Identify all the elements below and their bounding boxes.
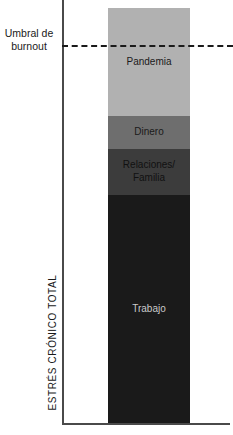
y-axis-title: ESTRÉS CRÓNICO TOTAL [47,253,58,433]
bar-segment-relaciones-familia: Relaciones/ Familia [108,149,190,195]
bar-segment-label-trabajo: Trabajo [132,303,166,316]
bar-segment-label-dinero: Dinero [134,126,163,139]
stress-stacked-bar-chart: Pandemia Dinero Relaciones/ Familia Trab… [0,0,233,435]
burnout-threshold-label: Umbral de burnout [0,27,58,53]
x-axis-line [62,423,230,425]
bar-segment-label-relaciones-familia: Relaciones/ Familia [123,159,175,184]
bar-segment-pandemia: Pandemia [108,8,190,116]
burnout-threshold-line [62,45,233,47]
bar-segment-trabajo: Trabajo [108,195,190,423]
stacked-bar: Pandemia Dinero Relaciones/ Familia Trab… [108,8,190,423]
bar-segment-dinero: Dinero [108,116,190,149]
y-axis-line [62,0,64,425]
bar-segment-label-pandemia: Pandemia [126,56,171,69]
